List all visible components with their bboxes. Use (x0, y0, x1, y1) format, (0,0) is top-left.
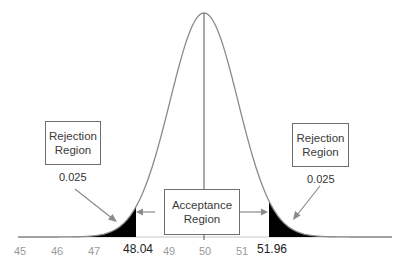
center-box-line2: Region (184, 213, 220, 225)
left-area-arrow (75, 189, 113, 219)
tick-51: 51 (236, 245, 248, 257)
left-area-arrowhead (108, 214, 117, 222)
left-area-label: 0.025 (59, 171, 87, 183)
right-box-line2: Region (302, 146, 338, 158)
tick-50: 50 (199, 245, 211, 257)
right-area-arrow (297, 186, 320, 215)
tick-45: 45 (14, 245, 26, 257)
acceptance-arrowhead-right (261, 209, 268, 216)
right-rejection-box: RejectionRegion (292, 123, 349, 167)
right-area-label: 0.025 (307, 173, 335, 185)
critical-value-left: 48.04 (123, 242, 153, 256)
center-box-line1: Acceptance (172, 199, 232, 211)
critical-value-right: 51.96 (257, 242, 287, 256)
tick-46: 46 (51, 245, 63, 257)
acceptance-box: AcceptanceRegion (164, 189, 240, 235)
tick-47: 47 (88, 245, 100, 257)
right-box-line1: Rejection (297, 132, 345, 144)
right-rejection-tail (269, 201, 392, 237)
left-box-line2: Region (55, 144, 91, 156)
acceptance-arrowhead-left (136, 209, 143, 216)
left-rejection-box: RejectionRegion (45, 121, 101, 165)
left-rejection-tail (18, 207, 136, 237)
tick-49: 49 (163, 245, 175, 257)
left-box-line1: Rejection (49, 130, 97, 142)
